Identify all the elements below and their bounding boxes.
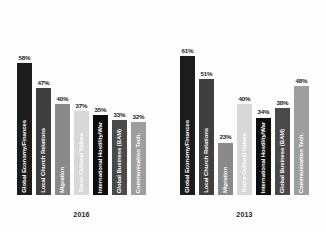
plot-area-2013: 61%Global Economy/Finances51%Local Churc… bbox=[163, 10, 326, 195]
bar-slot: 51%Local Church Relations bbox=[199, 10, 214, 195]
bar-value-label: 61% bbox=[182, 48, 194, 54]
bar-slot: 40%Migration bbox=[55, 10, 70, 195]
bar: International Hostility/War bbox=[93, 115, 108, 195]
bar: International Hostility/War bbox=[256, 118, 271, 195]
bar: Local Church Relations bbox=[199, 79, 214, 195]
bar: Communication Tech. bbox=[294, 86, 309, 195]
bar-category-label: International Hostility/War bbox=[256, 122, 271, 193]
bar-category-label: Migration bbox=[218, 167, 233, 193]
bar-slot: 23%Migration bbox=[218, 10, 233, 195]
bar-value-label: 48% bbox=[296, 78, 308, 84]
bar-category-label: International Hostility/War bbox=[93, 122, 108, 193]
bar-category-label: Global Economy/Finances bbox=[180, 120, 195, 193]
bar-slot: 34%International Hostility/War bbox=[256, 10, 271, 195]
bar-value-label: 33% bbox=[114, 112, 126, 118]
year-label-2013: 2013 bbox=[163, 211, 326, 218]
bar-value-label: 23% bbox=[220, 134, 232, 140]
bar: Socio-Cultural Values bbox=[74, 111, 89, 195]
year-label-2016: 2016 bbox=[0, 211, 163, 218]
bar-category-label: Communication Tech. bbox=[131, 133, 146, 193]
bar-slot: 38%Global Business (BAM) bbox=[275, 10, 290, 195]
bar: Socio-Cultural Values bbox=[237, 104, 252, 195]
bar-category-label: Migration bbox=[55, 167, 70, 193]
bar-value-label: 35% bbox=[95, 107, 107, 113]
bar-slot: 37%Socio-Cultural Values bbox=[74, 10, 89, 195]
bar-category-label: Socio-Cultural Values bbox=[74, 133, 89, 193]
bar-value-label: 38% bbox=[277, 100, 289, 106]
bar-category-label: Socio-Cultural Values bbox=[237, 133, 252, 193]
bar-slot: 35%International Hostility/War bbox=[93, 10, 108, 195]
bar-slot: 48%Communication Tech. bbox=[294, 10, 309, 195]
bar: Global Economy/Finances bbox=[180, 56, 195, 195]
bar-slot: 33%Global Business (BAM) bbox=[112, 10, 127, 195]
bar-value-label: 51% bbox=[201, 71, 213, 77]
bar-slot: 40%Socio-Cultural Values bbox=[237, 10, 252, 195]
bar-category-label: Local Church Relations bbox=[36, 128, 51, 193]
bar-value-label: 47% bbox=[38, 80, 50, 86]
bar-value-label: 58% bbox=[19, 55, 31, 61]
two-panel-bar-chart: 58%Global Economy/Finances47%Local Churc… bbox=[0, 0, 326, 232]
bar: Migration bbox=[55, 104, 70, 195]
bar: Migration bbox=[218, 143, 233, 195]
bar-slot: 58%Global Economy/Finances bbox=[17, 10, 32, 195]
bar-category-label: Global Business (BAM) bbox=[275, 129, 290, 193]
bar-category-label: Global Business (BAM) bbox=[112, 129, 127, 193]
plot-area-2016: 58%Global Economy/Finances47%Local Churc… bbox=[0, 10, 163, 195]
bar-category-label: Local Church Relations bbox=[199, 128, 214, 193]
bar-value-label: 34% bbox=[258, 109, 270, 115]
bar: Global Business (BAM) bbox=[112, 120, 127, 195]
bar-slot: 47%Local Church Relations bbox=[36, 10, 51, 195]
bar-slot: 32%Communication Tech. bbox=[131, 10, 146, 195]
bar-category-label: Communication Tech. bbox=[294, 133, 309, 193]
bar-value-label: 40% bbox=[57, 96, 69, 102]
bar: Global Business (BAM) bbox=[275, 108, 290, 195]
bar: Communication Tech. bbox=[131, 122, 146, 195]
bar-slot: 61%Global Economy/Finances bbox=[180, 10, 195, 195]
bar-value-label: 37% bbox=[76, 103, 88, 109]
bar-value-label: 32% bbox=[133, 114, 145, 120]
chart-panel-2016: 58%Global Economy/Finances47%Local Churc… bbox=[0, 0, 163, 232]
bar: Global Economy/Finances bbox=[17, 63, 32, 195]
bar-value-label: 40% bbox=[239, 96, 251, 102]
bar-category-label: Global Economy/Finances bbox=[17, 120, 32, 193]
bar: Local Church Relations bbox=[36, 88, 51, 195]
chart-panel-2013: 61%Global Economy/Finances51%Local Churc… bbox=[163, 0, 326, 232]
